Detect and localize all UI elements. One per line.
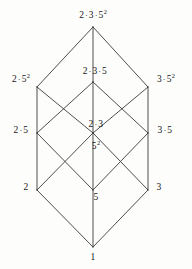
- node-label-2_5: 2·5: [14, 126, 29, 136]
- hasse-diagram-figure: 2·3·522·522·3·53·522·52·3523·52531: [0, 0, 192, 269]
- node-label-3_5: 3·5: [158, 126, 173, 136]
- diagram-edge: [37, 82, 93, 133]
- node-label-2_3: 2·3: [89, 120, 104, 130]
- diagram-edge: [93, 190, 148, 247]
- diagram-edge: [37, 190, 93, 247]
- diagram-edge: [37, 27, 93, 87]
- node-label-5: 5: [93, 193, 98, 203]
- node-label-2_3_5: 2·3·5: [83, 67, 107, 77]
- node-label-3: 3: [156, 183, 161, 193]
- node-label-top: 2·3·52: [79, 11, 107, 21]
- node-label-3_5_2: 3·52: [157, 75, 175, 85]
- node-label-2: 2: [23, 183, 28, 193]
- node-label-5_2: 52: [92, 142, 100, 152]
- node-label-2_5_2: 2·52: [12, 75, 30, 85]
- diagram-edge: [37, 87, 93, 133]
- node-label-one: 1: [90, 253, 95, 263]
- diagram-edge: [93, 27, 148, 87]
